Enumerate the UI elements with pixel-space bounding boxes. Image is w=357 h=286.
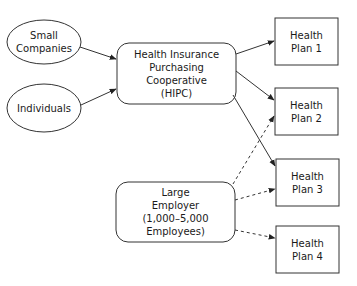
edge-large-employer-plan2 <box>233 116 274 184</box>
plan4-label-line1: Health <box>291 237 324 250</box>
individuals-node: Individuals <box>7 84 81 132</box>
plan2-node: Health Plan 2 <box>275 88 338 135</box>
plan2-label-line1: Health <box>290 99 323 112</box>
large-employer-label-line3: (1,000–5,000 <box>142 212 208 225</box>
edge-large-employer-plan4 <box>235 230 275 238</box>
plan3-label-line1: Health <box>291 170 324 183</box>
hipc-node: Health Insurance Purchasing Cooperative … <box>117 43 236 104</box>
edge-large-employer-plan3 <box>235 189 275 200</box>
small-companies-node: Small Companies <box>7 20 81 64</box>
large-employer-label-line2: Employer <box>152 199 200 212</box>
large-employer-node: Large Employer (1,000–5,000 Employees) <box>116 182 235 242</box>
edge-hipc-plan2 <box>236 71 274 100</box>
plan1-label-line2: Plan 1 <box>291 42 322 55</box>
plan4-node: Health Plan 4 <box>276 226 339 273</box>
small-companies-label-line1: Small <box>30 29 58 42</box>
large-employer-label-line1: Large <box>161 186 189 199</box>
hipc-label-line3: Cooperative <box>146 74 207 87</box>
individuals-label: Individuals <box>17 102 71 115</box>
hipc-label-line4: (HIPC) <box>161 87 192 100</box>
plan3-node: Health Plan 3 <box>276 159 339 206</box>
plan1-node: Health Plan 1 <box>275 18 338 65</box>
edge-hipc-plan3 <box>233 95 275 166</box>
plan2-label-line2: Plan 2 <box>291 112 322 125</box>
edge-individuals-hipc <box>81 89 116 105</box>
edge-hipc-plan1 <box>236 41 274 54</box>
edge-small-companies-hipc <box>80 47 116 59</box>
plan3-label-line2: Plan 3 <box>292 183 323 196</box>
plan1-label-line1: Health <box>290 29 323 42</box>
plan4-label-line2: Plan 4 <box>292 250 323 263</box>
hipc-label-line2: Purchasing <box>149 61 204 74</box>
large-employer-label-line4: Employees) <box>146 225 205 238</box>
small-companies-label-line2: Companies <box>16 42 72 55</box>
hipc-label-line1: Health Insurance <box>134 48 219 61</box>
